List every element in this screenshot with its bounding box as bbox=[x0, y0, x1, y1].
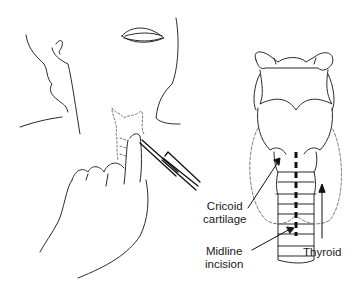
cricoid-cartilage-label: Cricoid cartilage bbox=[203, 200, 246, 226]
hand-outline bbox=[40, 134, 148, 278]
midline-incision-label: Midline incision bbox=[205, 245, 243, 271]
midline-label-line1: Midline bbox=[205, 245, 243, 258]
medical-illustration: Cricoid cartilage Midline incision Thyro… bbox=[0, 0, 358, 293]
midline-label-line2: incision bbox=[205, 258, 243, 271]
scalpel-icon bbox=[140, 140, 200, 190]
head-outline bbox=[20, 18, 180, 134]
neck-larynx-dashed bbox=[112, 108, 144, 160]
cricoid-label-line1: Cricoid bbox=[203, 200, 246, 213]
thyroid-label: Thyroid bbox=[303, 246, 341, 259]
cricoid-label-line2: cartilage bbox=[203, 213, 246, 226]
